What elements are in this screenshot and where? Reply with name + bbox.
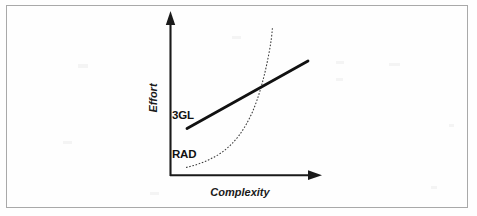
y-axis-title: Effort (147, 82, 159, 112)
rad-curve (186, 27, 273, 168)
series-label-3gl: 3GL (172, 109, 194, 121)
figure-root: Effort Complexity 3GL RAD (0, 0, 477, 216)
x-axis-title: Complexity (210, 186, 270, 198)
x-axis-arrow-icon (308, 170, 322, 180)
y-axis-arrow-icon (166, 11, 175, 25)
threegl-line (187, 61, 308, 129)
effort-complexity-chart: Effort Complexity 3GL RAD (0, 0, 477, 216)
series-label-rad: RAD (172, 148, 196, 160)
